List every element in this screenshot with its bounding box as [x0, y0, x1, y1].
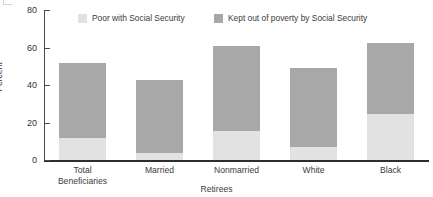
y-tick-label: 0	[32, 155, 37, 165]
plot-area: 020406080	[44, 10, 429, 160]
bar-segment-poor-with-ss	[136, 153, 183, 160]
bar-segment-poor-with-ss	[59, 138, 106, 160]
y-tick-mark	[45, 48, 50, 49]
x-axis-category-label: Married	[121, 165, 198, 176]
bar-stack	[367, 43, 414, 160]
y-tick-label: 40	[27, 80, 37, 90]
y-tick-label: 80	[27, 5, 37, 15]
bar-segment-kept-out-of-poverty	[367, 43, 414, 114]
x-axis-title: Retirees	[0, 184, 433, 194]
bar-stack	[136, 80, 183, 160]
bar-stack	[213, 46, 260, 160]
y-tick-mark	[45, 123, 50, 124]
chart-container: Poor with Social Security Kept out of po…	[0, 0, 433, 197]
x-axis-category-label: Black	[352, 165, 429, 176]
bar-segment-poor-with-ss	[213, 131, 260, 160]
bar-segment-kept-out-of-poverty	[213, 46, 260, 131]
bar-segment-poor-with-ss	[367, 114, 414, 160]
y-tick-label: 60	[27, 43, 37, 53]
bar-segment-kept-out-of-poverty	[136, 80, 183, 153]
x-axis-category-label: White	[275, 165, 352, 176]
bar-segment-poor-with-ss	[290, 147, 337, 160]
y-tick-mark	[45, 160, 50, 161]
x-axis-line	[44, 160, 429, 162]
y-axis-title: Percent	[0, 62, 4, 92]
bar-stack	[59, 63, 106, 160]
bar-stack	[290, 68, 337, 160]
corner-crop-mark	[3, 0, 12, 5]
y-tick-label: 20	[27, 118, 37, 128]
bar-segment-kept-out-of-poverty	[59, 63, 106, 138]
x-axis-category-label: Nonmarried	[198, 165, 275, 176]
bar-segment-kept-out-of-poverty	[290, 68, 337, 147]
y-tick-mark	[45, 10, 50, 11]
y-tick-mark	[45, 85, 50, 86]
